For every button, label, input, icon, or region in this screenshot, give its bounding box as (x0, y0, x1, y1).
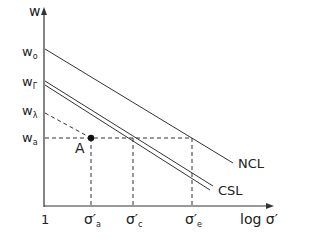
x-tick-main: σ′ (84, 211, 96, 227)
point-a-marker (88, 135, 94, 141)
y-axis-arrow-icon (41, 7, 47, 15)
x-tick-sigma-a: σ′a (84, 212, 101, 229)
x-tick-main: σ′ (185, 211, 197, 227)
y-tick-w-a: wa (22, 131, 38, 147)
y-tick-main: w (22, 74, 33, 89)
y-tick-w-o: wo (22, 45, 38, 61)
swelling-line (45, 113, 91, 138)
y-tick-sub: Γ (33, 82, 37, 91)
y-tick-main: w (22, 130, 33, 145)
ncl-label: NCL (238, 157, 264, 170)
point-a-label: A (75, 141, 85, 155)
x-tick-sigma-c: σ′c (126, 212, 142, 229)
x-tick-sub: a (96, 220, 101, 229)
x-origin-label: 1 (41, 213, 49, 226)
y-tick-sub: a (33, 138, 38, 147)
y-tick-main: w (22, 44, 33, 59)
y-axis-label: w (29, 4, 40, 18)
y-tick-main: w (22, 103, 33, 118)
x-axis-arrow-icon (266, 203, 274, 209)
ncl-line (45, 49, 233, 163)
y-tick-sub: o (33, 52, 38, 61)
x-tick-main: σ′ (126, 211, 138, 227)
y-tick-w-lambda: wλ (22, 104, 37, 120)
x-axis-label: log σ′ (240, 212, 278, 226)
csl-label: CSL (218, 184, 243, 197)
x-tick-sub: c (138, 220, 142, 229)
y-tick-sub: λ (33, 111, 38, 120)
x-tick-sigma-e: σ′e (185, 212, 202, 229)
x-tick-sub: e (197, 220, 202, 229)
csl-line-upper (45, 81, 213, 186)
y-tick-w-gamma: wΓ (22, 75, 37, 91)
